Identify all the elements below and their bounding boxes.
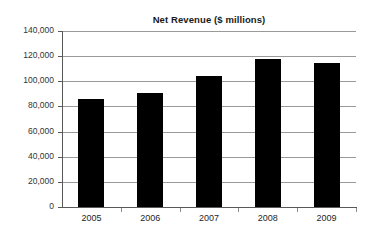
bar	[255, 59, 281, 207]
x-axis-tick	[297, 208, 298, 212]
y-axis-tick-label: 60,000	[2, 126, 54, 136]
y-axis-tick-label: 140,000	[2, 25, 54, 35]
bar	[78, 99, 104, 207]
x-axis-tick	[238, 208, 239, 212]
bar	[314, 63, 340, 207]
y-axis-line	[62, 31, 63, 208]
bar	[137, 93, 163, 207]
x-axis-tick-label: 2007	[179, 213, 239, 223]
x-axis-tick-label: 2005	[61, 213, 121, 223]
x-axis-tick	[121, 208, 122, 212]
gridline	[62, 56, 356, 57]
bar	[196, 76, 222, 207]
y-axis-tick-label: 40,000	[2, 151, 54, 161]
x-axis-tick-label: 2006	[120, 213, 180, 223]
y-axis-labels: 020,00040,00060,00080,000100,000120,0001…	[0, 0, 54, 245]
plot-area	[62, 31, 356, 207]
y-axis-tick-label: 20,000	[2, 176, 54, 186]
chart-title: Net Revenue ($ millions)	[62, 14, 356, 25]
y-axis-tick-label: 120,000	[2, 50, 54, 60]
y-axis-tick-label: 80,000	[2, 100, 54, 110]
y-axis-tick-label: 0	[2, 201, 54, 211]
y-axis-tick-label: 100,000	[2, 75, 54, 85]
x-axis-tick	[356, 208, 357, 212]
gridline	[62, 31, 356, 32]
x-axis-tick-label: 2008	[238, 213, 298, 223]
x-axis-tick-label: 2009	[297, 213, 357, 223]
bar-chart: Net Revenue ($ millions) 020,00040,00060…	[0, 0, 376, 245]
x-axis-tick	[180, 208, 181, 212]
x-axis-line	[62, 207, 357, 208]
